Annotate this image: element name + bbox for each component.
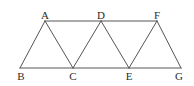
figure-strokes	[20, 21, 181, 68]
edge-B-A	[20, 21, 45, 68]
edge-E-F	[129, 21, 157, 68]
vertex-label-G: G	[172, 71, 186, 82]
vertex-label-B: B	[14, 71, 28, 82]
edge-F-G	[157, 21, 181, 68]
vertex-label-A: A	[38, 10, 52, 21]
edge-A-C	[45, 21, 73, 68]
edge-C-D	[73, 21, 101, 68]
triangular-strip-figure: A D F B C E G	[0, 0, 194, 86]
edge-D-E	[101, 21, 129, 68]
vertex-label-E: E	[122, 71, 136, 82]
vertex-label-C: C	[66, 71, 80, 82]
vertex-label-F: F	[150, 10, 164, 21]
vertex-label-D: D	[94, 10, 108, 21]
